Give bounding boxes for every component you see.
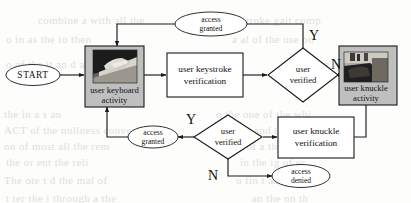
node-knuckle-verification: user knuckle verification [278, 117, 354, 158]
knuckle-verification-label-line2: verification [295, 138, 338, 148]
access-granted-top-label-line1: access [201, 15, 220, 24]
branch-label-top-yes: Y [309, 28, 319, 43]
knuckle-activity-label-line1: user knuckle [344, 83, 388, 93]
connector-verified-bottom-no-to-denied [228, 156, 272, 176]
user-verified-bottom-label-line1: user [221, 126, 235, 136]
connector-verified-top-yes-to-granted [247, 24, 303, 50]
keystroke-verification-label-line2: verification [184, 76, 227, 86]
branch-label-bottom-no: N [208, 168, 218, 183]
connector-granted-bottom-to-keyboard [107, 107, 129, 137]
knuckle-activity-label-line2: activity [353, 93, 379, 103]
user-verified-bottom-label-line2: verified [215, 137, 242, 147]
branch-label-bottom-yes: Y [186, 112, 196, 127]
keyboard-activity-label-line2: activity [102, 95, 128, 105]
branch-label-top-no: N [331, 57, 341, 72]
access-granted-top-label-line2: granted [200, 24, 223, 33]
access-denied-label-line1: access [291, 167, 310, 176]
node-access-granted-bottom: access granted [128, 126, 178, 148]
access-denied-label-line2: denied [291, 176, 311, 185]
connector-granted-top-to-keyboard [117, 24, 175, 46]
user-verified-top-label-line2: verified [290, 75, 317, 85]
knuckle-verification-label-line1: user knuckle [293, 126, 340, 136]
user-verified-top-label-line1: user [296, 64, 310, 74]
access-granted-bottom-label-line1: access [143, 128, 162, 137]
keyboard-activity-label-line1: user keyboard [90, 85, 139, 95]
node-access-granted-top: access granted [175, 12, 247, 36]
node-user-verified-top: user verified [268, 48, 338, 102]
node-start: START [6, 65, 60, 86]
access-granted-bottom-label-line2: granted [142, 137, 165, 146]
node-user-verified-bottom: user verified [194, 115, 262, 159]
hands-on-keyboard-photo [93, 50, 137, 83]
node-access-denied: access denied [272, 165, 330, 188]
knuckle-hand-photo [344, 52, 388, 82]
node-keystroke-verification: user keystroke verification [167, 53, 243, 97]
node-knuckle-activity: user knuckle activity [339, 46, 397, 105]
flowchart-canvas: START user keyboard activity user keystr… [0, 0, 411, 203]
start-label: START [17, 70, 48, 80]
node-keyboard-activity: user keyboard activity [85, 46, 144, 107]
flowchart-figure: combine a with all thetroke gait compo i… [0, 0, 411, 203]
keystroke-verification-label-line1: user keystroke [178, 64, 231, 74]
